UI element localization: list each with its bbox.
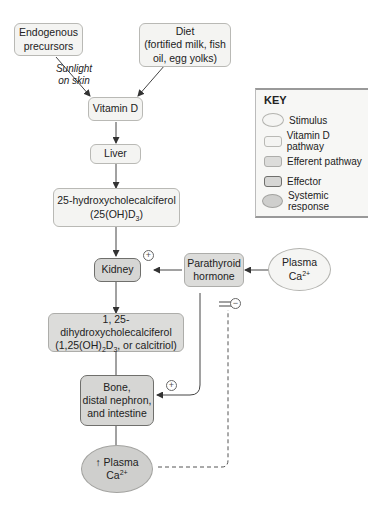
up-arrow-icon: ↑ — [95, 456, 100, 468]
plus-sign-kidney: + — [143, 250, 154, 261]
systemic-response-swatch-icon — [262, 194, 283, 208]
hydroxy-text-a: (25(OH)D — [90, 208, 136, 220]
minus-sign-pth: − — [230, 298, 241, 309]
calcitriol-label-2: (1,25(OH)2D3, or calcitriol) — [55, 339, 177, 352]
hydroxy-label-2: (25(OH)D3) — [90, 208, 143, 221]
plasma-label-2: Ca2+ — [289, 270, 310, 283]
hydroxy-label-1: 25-hydroxycholecalciferol — [57, 194, 175, 207]
effectors-label-3: and intestine — [87, 407, 147, 420]
key-item-stimulus: Stimulus — [262, 112, 327, 128]
hydroxy-text-b: ) — [139, 208, 143, 220]
plasma-ca-stimulus-node: Plasma Ca2+ — [268, 248, 331, 291]
plasma-label-1: Plasma — [282, 256, 317, 269]
endogenous-label-2: precursors — [24, 40, 74, 53]
response-plasma: Plasma — [104, 456, 139, 468]
bone-nephron-intestine-node: Bone, distal nephron, and intestine — [80, 375, 154, 426]
effector-swatch-icon — [264, 176, 282, 187]
plasma-sup: 2+ — [302, 269, 310, 276]
diet-node: Diet (fortified milk, fish oil, egg yolk… — [139, 23, 231, 67]
kidney-label: Kidney — [101, 263, 133, 276]
sunlight-label-2: on skin — [50, 75, 98, 87]
plasma-ca: Ca — [289, 270, 302, 282]
plus-sign-effectors: + — [166, 380, 177, 391]
key-label-effector: Effector — [287, 176, 321, 187]
kidney-node: Kidney — [94, 258, 141, 282]
key-label-vitamin-d-pathway: Vitamin D pathway — [287, 130, 368, 152]
key-title: KEY — [264, 94, 287, 106]
hydroxycholecalciferol-node: 25-hydroxycholecalciferol (25(OH)D3) — [53, 188, 180, 227]
calcitriol-text-a: (1,25(OH) — [55, 339, 102, 351]
key-item-systemic-response: Systemic response — [262, 193, 368, 209]
response-label-2: Ca2+ — [106, 469, 127, 482]
stimulus-swatch-icon — [262, 113, 284, 127]
endogenous-label-1: Endogenous — [19, 26, 78, 39]
parathyroid-hormone-node: Parathyroid hormone — [184, 253, 244, 287]
response-sup: 2+ — [120, 469, 128, 476]
vitamin-d-node: Vitamin D — [88, 97, 143, 121]
calcitriol-label-1: 1, 25-dihydroxycholecalciferol — [49, 313, 183, 339]
pth-label-2: hormone — [193, 270, 234, 283]
effectors-label-1: Bone, — [103, 381, 130, 394]
effectors-label-2: distal nephron, — [83, 394, 152, 407]
liver-label: Liver — [104, 147, 127, 160]
diet-label-1: Diet — [176, 25, 195, 38]
efferent-swatch-icon — [264, 156, 282, 167]
calcitriol-node: 1, 25-dihydroxycholecalciferol (1,25(OH)… — [48, 313, 184, 352]
pth-label-1: Parathyroid — [187, 257, 241, 270]
key-item-efferent-pathway: Efferent pathway — [262, 153, 362, 169]
legend-key: KEY Stimulus Vitamin D pathway Efferent … — [255, 88, 368, 218]
key-label-stimulus: Stimulus — [289, 115, 327, 126]
key-item-effector: Effector — [262, 173, 321, 189]
key-item-vitamin-d-pathway: Vitamin D pathway — [262, 133, 368, 149]
diet-label-2: (fortified milk, fish — [144, 38, 226, 51]
plasma-ca-response-node: ↑ Plasma Ca2+ — [81, 445, 153, 493]
liver-node: Liver — [90, 144, 141, 164]
key-label-systemic-response: Systemic response — [288, 190, 368, 212]
key-label-efferent-pathway: Efferent pathway — [287, 156, 362, 167]
endogenous-precursors-node: Endogenous precursors — [14, 23, 83, 56]
response-label-1: ↑ Plasma — [95, 456, 138, 469]
vitamin-d-swatch-icon — [264, 136, 282, 147]
calcitriol-text-c: , or calcitriol) — [117, 339, 177, 351]
vitamin-d-label: Vitamin D — [93, 102, 138, 115]
sunlight-label: Sunlight on skin — [50, 63, 98, 87]
response-ca: Ca — [106, 469, 119, 481]
diet-label-3: oil, egg yolks) — [153, 52, 217, 65]
sunlight-label-1: Sunlight — [50, 63, 98, 75]
